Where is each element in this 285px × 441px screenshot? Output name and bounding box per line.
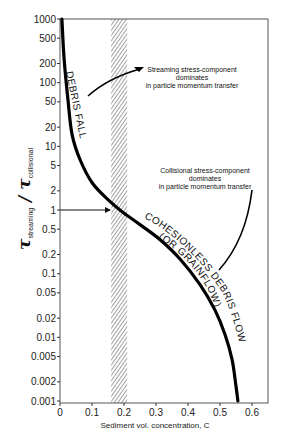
y-tick-label: 0.001 [31,396,56,407]
y-tick-label: 0.005 [31,351,56,362]
x-tick-label: 0.5 [213,407,227,418]
y-tick-label: 0.1 [42,268,56,279]
svg-text:τstreaming / τcollisional: τstreaming / τcollisional [14,148,35,250]
collisional-leader-line [219,190,252,270]
y-tick-label: 100 [39,77,56,88]
svg-text:dominates: dominates [189,175,222,182]
svg-text:in particle momentum transfer: in particle momentum transfer [159,183,252,191]
y-axis-label: τstreaming / τcollisional [14,148,35,250]
x-tick-label: 0.1 [85,407,99,418]
collisional-annotation: Collisional stress-component dominates i… [159,167,252,191]
y-tick-label: 1 [50,205,56,216]
chart: 10005002001005020105210.50.20.10.050.020… [0,0,285,441]
svg-text:Collisional stress-component: Collisional stress-component [160,167,250,175]
y-tick-label: 0.01 [37,332,57,343]
y-tick-label: 10 [45,141,57,152]
y-tick-label: 1000 [34,14,57,25]
svg-text:Streaming stress-component: Streaming stress-component [147,66,237,74]
y-tick-label: 2 [50,185,56,196]
x-axis-label: Sediment vol. concentration, C [101,421,210,430]
y-tick-label: 0.5 [42,224,56,235]
streaming-annotation: Streaming stress-component dominates in … [146,66,239,90]
x-tick-label: 0.2 [117,407,131,418]
svg-text:dominates: dominates [176,74,209,81]
y-tick-label: 20 [45,122,57,133]
x-tick-label: 0.4 [181,407,195,418]
y-tick-label: 0.2 [42,249,56,260]
y-tick-label: 0.002 [31,376,56,387]
x-tick-label: 0.3 [149,407,163,418]
plot-frame [60,19,268,403]
y-axis: 10005002001005020105210.50.20.10.050.020… [31,14,60,407]
y-tick-label: 0.02 [37,313,57,324]
y-tick-label: 500 [39,33,56,44]
x-tick-label: 0.6 [245,407,259,418]
y-tick-label: 5 [50,160,56,171]
y-tick-label: 50 [45,96,57,107]
svg-text:in particle momentum transfer: in particle momentum transfer [146,82,239,90]
x-tick-label: 0 [57,407,63,418]
x-axis: 00.10.20.30.40.50.6 [57,403,259,418]
y-tick-label: 200 [39,58,56,69]
y-tick-label: 0.05 [37,287,57,298]
